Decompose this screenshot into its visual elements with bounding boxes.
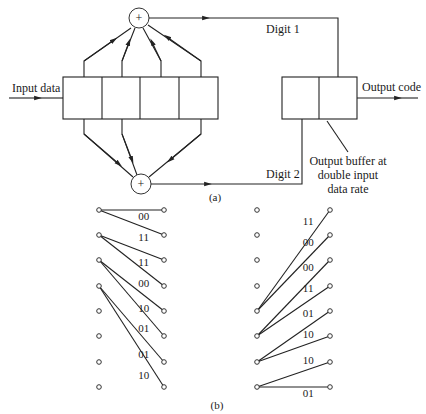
state-node	[162, 208, 167, 213]
tap-line	[122, 119, 137, 175]
shift-register	[63, 77, 218, 119]
tap-arrow	[84, 134, 119, 164]
tap-arrow	[152, 42, 161, 61]
trellis-right: 1100001101101001	[255, 208, 333, 399]
state-node	[162, 309, 167, 314]
tap-arrow	[170, 134, 201, 160]
state-node	[328, 284, 333, 289]
state-node	[162, 233, 167, 238]
state-node	[255, 258, 260, 263]
output-code-label: Output code	[362, 80, 421, 94]
convolutional-encoder-figure: Input data	[0, 0, 426, 414]
branch-output-label: 11	[138, 256, 149, 268]
state-node	[162, 334, 167, 339]
tap-line	[84, 119, 133, 177]
state-node	[328, 360, 333, 365]
trellis-branch	[99, 235, 164, 286]
branch-output-label: 01	[303, 387, 314, 399]
tap-arrow	[122, 42, 129, 61]
branch-output-label: 10	[138, 369, 150, 381]
trellis-branch	[257, 362, 330, 387]
top-adder: +	[129, 8, 149, 28]
trellis-branch	[257, 235, 330, 311]
adder-symbol: +	[138, 177, 145, 191]
state-node	[328, 233, 333, 238]
state-node	[255, 233, 260, 238]
state-node	[97, 385, 102, 390]
input-data-label: Input data	[12, 81, 61, 95]
trellis-branch	[99, 210, 164, 235]
buffer-leader-line	[327, 121, 348, 152]
bottom-adder-connections	[84, 119, 201, 177]
trellis-branch	[257, 311, 330, 362]
trellis-branch	[257, 210, 330, 311]
branch-output-label: 00	[138, 277, 150, 289]
branch-output-label: 11	[303, 282, 314, 294]
tap-line	[143, 28, 161, 77]
trellis-branch	[257, 286, 330, 336]
state-node	[328, 208, 333, 213]
state-node	[97, 258, 102, 263]
state-node	[255, 309, 260, 314]
state-node	[162, 258, 167, 263]
tap-line	[84, 28, 131, 77]
state-node	[162, 360, 167, 365]
encoder-diagram: Input data	[9, 8, 421, 204]
bottom-adder: +	[131, 174, 151, 194]
state-node	[255, 360, 260, 365]
state-node	[97, 334, 102, 339]
state-node	[97, 233, 102, 238]
state-node	[97, 360, 102, 365]
trellis-branch	[99, 286, 164, 387]
tap-arrow	[122, 134, 132, 160]
state-node	[97, 208, 102, 213]
state-node	[255, 284, 260, 289]
buffer-note-line2: double input	[318, 168, 379, 182]
branch-output-label: 00	[303, 261, 315, 273]
caption-b: (b)	[211, 399, 224, 412]
branch-output-label: 10	[303, 328, 315, 340]
tap-arrow	[167, 37, 201, 61]
digit1-label: Digit 1	[266, 22, 300, 36]
output-buffer	[282, 77, 357, 119]
state-node	[162, 385, 167, 390]
buffer-note-line1: Output buffer at	[309, 154, 387, 168]
branch-output-label: 00	[138, 210, 150, 222]
branch-output-label: 01	[138, 322, 149, 334]
trellis-branch	[257, 336, 330, 362]
trellis-branch	[99, 260, 164, 311]
branch-output-label: 00	[303, 236, 315, 248]
state-node	[97, 284, 102, 289]
branch-output-label: 11	[303, 215, 314, 227]
top-adder-connections	[84, 25, 201, 77]
state-node	[328, 334, 333, 339]
state-node	[255, 385, 260, 390]
digit2-label: Digit 2	[266, 167, 300, 181]
tap-line	[149, 119, 201, 177]
state-node	[162, 284, 167, 289]
tap-line	[122, 28, 135, 77]
state-node	[328, 385, 333, 390]
state-node	[255, 334, 260, 339]
branch-output-label: 10	[303, 354, 315, 366]
trellis-branch	[99, 235, 164, 260]
state-node	[328, 258, 333, 263]
branch-output-label: 11	[138, 231, 149, 243]
state-node	[328, 309, 333, 314]
state-node	[97, 309, 102, 314]
adder-symbol: +	[136, 11, 143, 25]
tap-arrow	[84, 40, 114, 61]
state-node	[255, 208, 260, 213]
trellis-left: 0011110010010110	[97, 208, 167, 390]
trellis-branch	[257, 260, 330, 336]
buffer-note-line3: data rate	[328, 182, 369, 196]
branch-output-label: 01	[303, 307, 314, 319]
caption-a: (a)	[209, 191, 222, 204]
